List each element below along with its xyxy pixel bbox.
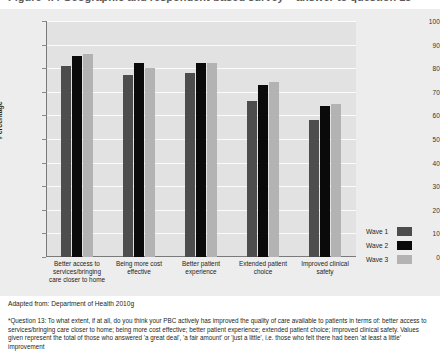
legend-label: Wave 1 — [366, 228, 392, 235]
legend-swatch — [397, 227, 412, 236]
chart-panel: Percentage 0102030405060708090100 Better… — [0, 9, 440, 296]
bar — [145, 68, 155, 257]
bar — [320, 106, 330, 257]
x-axis-category-label: Better patient experience — [170, 260, 232, 285]
y-axis-tick-label: 60 — [400, 112, 440, 119]
legend-label: Wave 2 — [366, 242, 392, 249]
chart-legend: Wave 1Wave 2Wave 3 — [366, 227, 412, 264]
bar-group — [294, 21, 356, 257]
figure-footnote: *Question 13: To what extent, if at all,… — [8, 317, 432, 351]
bar — [309, 120, 319, 257]
y-axis-tick-label: 30 — [400, 183, 440, 190]
y-axis-tick-label: 40 — [400, 159, 440, 166]
bar — [185, 73, 195, 257]
x-axis-category-label: Being more cost effective — [108, 260, 170, 285]
y-axis-tick-label: 20 — [400, 206, 440, 213]
legend-item: Wave 3 — [366, 255, 412, 264]
legend-label: Wave 3 — [366, 256, 392, 263]
bar — [207, 63, 217, 257]
y-axis-title: Percentage — [0, 101, 3, 139]
y-axis-tick-label: 90 — [400, 41, 440, 48]
x-axis-category-label: Better access to services/bringing care … — [46, 260, 108, 285]
legend-swatch — [397, 241, 412, 250]
source-note: Adapted from: Department of Health 2010g — [8, 300, 134, 307]
bar — [258, 85, 268, 257]
x-axis-category-label: Extended patient choice — [232, 260, 294, 285]
y-axis-tick-label: 100 — [400, 18, 440, 25]
bar — [61, 66, 71, 257]
bar — [123, 75, 133, 257]
bar — [269, 82, 279, 257]
legend-item: Wave 2 — [366, 241, 412, 250]
page-title: Figure 4.4 Geographic and respondent-bas… — [8, 0, 411, 3]
bar-group — [170, 21, 232, 257]
legend-item: Wave 1 — [366, 227, 412, 236]
x-axis-category-label: Improved clinical safety — [294, 260, 356, 285]
x-axis-category-labels: Better access to services/bringing care … — [46, 260, 356, 285]
bar — [83, 54, 93, 257]
bar — [247, 101, 257, 257]
y-axis-tick-label: 80 — [400, 65, 440, 72]
bar — [134, 63, 144, 257]
bar-group — [46, 21, 108, 257]
bar — [72, 56, 82, 257]
bar — [196, 63, 206, 257]
bar-group — [232, 21, 294, 257]
figure-title-strip: Figure 4.4 Geographic and respondent-bas… — [0, 0, 440, 9]
y-axis-tick-label: 70 — [400, 88, 440, 95]
bar — [331, 104, 341, 257]
y-axis-tick-label: 50 — [400, 136, 440, 143]
bar-groups — [46, 21, 356, 257]
y-axis-tick-mark — [42, 257, 46, 258]
bar-group — [108, 21, 170, 257]
legend-swatch — [397, 255, 412, 264]
